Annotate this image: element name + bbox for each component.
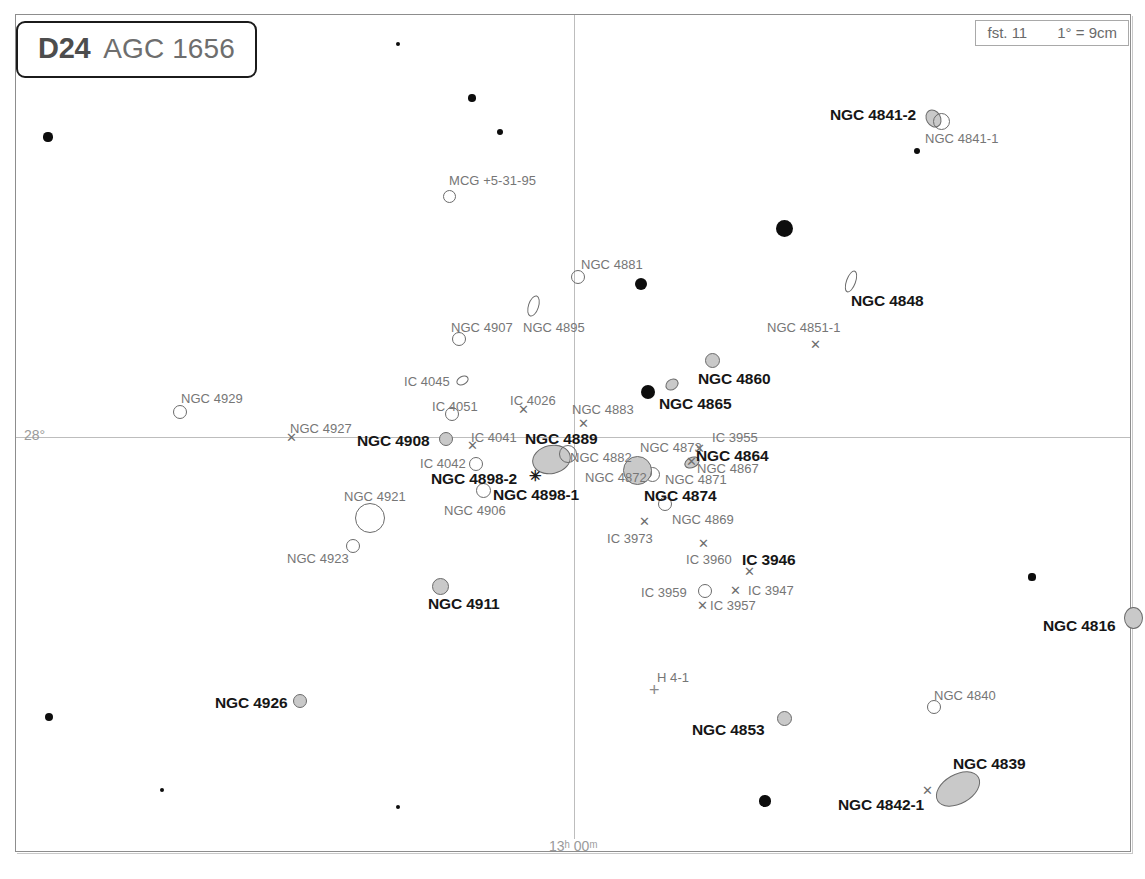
object-label-ngc-4839: NGC 4839 bbox=[953, 755, 1025, 773]
object-label-h-4-1: H 4-1 bbox=[657, 670, 689, 685]
object-label-ngc-4853: NGC 4853 bbox=[692, 721, 764, 739]
object-label-ngc-4872: NGC 4872 bbox=[585, 470, 647, 485]
galaxy-marker-ic-3959[interactable] bbox=[698, 584, 712, 598]
galaxy-marker-ngc-4881[interactable] bbox=[571, 270, 585, 284]
object-label-ngc-4865: NGC 4865 bbox=[659, 395, 731, 413]
object-label-ngc-4929: NGC 4929 bbox=[181, 391, 243, 406]
object-label-ic-4041: IC 4041 bbox=[471, 430, 517, 445]
ra-tick-label: 13ʰ 00ᵐ bbox=[549, 838, 597, 854]
galaxy-marker-ngc-4860[interactable] bbox=[705, 353, 720, 368]
object-label-ngc-4840: NGC 4840 bbox=[934, 688, 996, 703]
object-label-ngc-4923: NGC 4923 bbox=[287, 551, 349, 566]
galaxy-marker-ngc-4908[interactable] bbox=[439, 432, 453, 446]
object-label-ic-4045: IC 4045 bbox=[404, 374, 450, 389]
object-label-ngc-4895: NGC 4895 bbox=[523, 320, 585, 335]
object-label-ngc-4921: NGC 4921 bbox=[344, 489, 406, 504]
object-label-ic-3947: IC 3947 bbox=[748, 583, 794, 598]
field-star bbox=[759, 795, 770, 806]
object-label-ngc-4883: NGC 4883 bbox=[572, 402, 634, 417]
x-marker-ic-3957[interactable]: ✕ bbox=[697, 599, 708, 612]
object-label-ngc-4926: NGC 4926 bbox=[215, 694, 287, 712]
object-label-ngc-4889: NGC 4889 bbox=[525, 430, 597, 448]
object-label-ngc-4842-1: NGC 4842-1 bbox=[838, 796, 924, 814]
x-marker-ic-3973[interactable]: ✕ bbox=[639, 515, 650, 528]
chart-code: D24 bbox=[38, 32, 90, 65]
grid-line-ra-13h00m bbox=[574, 15, 575, 839]
object-label-ic-3955: IC 3955 bbox=[712, 430, 758, 445]
galaxy-marker-mcg-5-31-95[interactable] bbox=[443, 190, 456, 203]
scale-label: 1° = 9cm bbox=[1057, 24, 1117, 41]
object-label-ic-3973: IC 3973 bbox=[607, 531, 653, 546]
field-star bbox=[635, 278, 647, 290]
object-label-ngc-4898-1: NGC 4898-1 bbox=[493, 486, 579, 504]
chart-title-plate: D24 AGC 1656 bbox=[16, 21, 257, 78]
chart-name: AGC 1656 bbox=[103, 33, 235, 65]
star-chart-page: D24 AGC 1656 fst. 11 1° = 9cm 28° 13ʰ 00… bbox=[0, 0, 1145, 879]
limiting-magnitude-label: fst. 11 bbox=[987, 24, 1027, 41]
x-marker-ngc-4851-1[interactable]: ✕ bbox=[810, 338, 821, 351]
chart-scale-plate: fst. 11 1° = 9cm bbox=[975, 20, 1129, 46]
object-label-ngc-4869: NGC 4869 bbox=[672, 512, 734, 527]
object-label-ic-4051: IC 4051 bbox=[432, 399, 478, 414]
asterisk-marker-ngc-4898-2[interactable]: ✳ bbox=[529, 468, 542, 483]
field-star bbox=[1028, 573, 1035, 580]
object-label-ngc-4911: NGC 4911 bbox=[428, 595, 500, 613]
galaxy-marker-ngc-4841-1[interactable] bbox=[933, 113, 950, 130]
object-label-ngc-4927: NGC 4927 bbox=[290, 421, 352, 436]
object-label-ic-3957: IC 3957 bbox=[710, 598, 756, 613]
object-label-ic-4042: IC 4042 bbox=[420, 456, 466, 471]
object-label-ngc-4816: NGC 4816 bbox=[1043, 617, 1115, 635]
object-label-ngc-4860: NGC 4860 bbox=[698, 370, 770, 388]
object-label-ngc-4906: NGC 4906 bbox=[444, 503, 506, 518]
object-label-ngc-4874: NGC 4874 bbox=[644, 487, 716, 505]
object-label-ngc-4841-2: NGC 4841-2 bbox=[830, 106, 916, 124]
galaxy-marker-ngc-4929[interactable] bbox=[173, 405, 187, 419]
object-label-ngc-4851-1: NGC 4851-1 bbox=[767, 320, 840, 335]
object-label-ic-3946: IC 3946 bbox=[742, 551, 796, 569]
object-label-ngc-4908: NGC 4908 bbox=[357, 432, 429, 450]
object-label-ic-4026: IC 4026 bbox=[510, 393, 556, 408]
galaxy-marker-ngc-4816[interactable] bbox=[1124, 607, 1143, 629]
object-label-mcg-5-31-95: MCG +5-31-95 bbox=[449, 173, 536, 188]
x-marker-ngc-4883[interactable]: ✕ bbox=[578, 417, 589, 430]
object-label-ngc-4882: NGC 4882 bbox=[570, 450, 632, 465]
object-label-ngc-4881: NGC 4881 bbox=[581, 257, 643, 272]
field-star bbox=[43, 132, 52, 141]
object-label-ic-3959: IC 3959 bbox=[641, 585, 687, 600]
object-label-ngc-4841-1: NGC 4841-1 bbox=[925, 131, 998, 146]
x-marker-ic-3947[interactable]: ✕ bbox=[730, 584, 741, 597]
galaxy-marker-ngc-4921[interactable] bbox=[355, 503, 385, 533]
galaxy-marker-ngc-4911[interactable] bbox=[432, 578, 449, 595]
object-label-ngc-4873: NGC 4873 bbox=[640, 440, 702, 455]
field-star bbox=[641, 385, 655, 399]
object-label-ngc-4907: NGC 4907 bbox=[451, 320, 513, 335]
field-star bbox=[468, 94, 476, 102]
galaxy-marker-ngc-4926[interactable] bbox=[293, 694, 307, 708]
object-label-ic-3960: IC 3960 bbox=[686, 552, 732, 567]
object-label-ngc-4848: NGC 4848 bbox=[851, 292, 923, 310]
x-marker-ic-3960[interactable]: ✕ bbox=[698, 537, 709, 550]
object-label-ngc-4871: NGC 4871 bbox=[665, 472, 727, 487]
galaxy-marker-ngc-4853[interactable] bbox=[777, 711, 792, 726]
galaxy-marker-ic-4042[interactable] bbox=[469, 457, 483, 471]
dec-tick-label: 28° bbox=[24, 427, 45, 443]
field-star bbox=[776, 220, 793, 237]
